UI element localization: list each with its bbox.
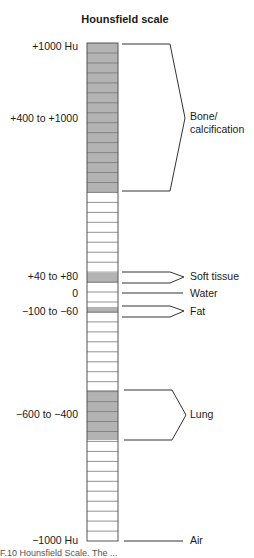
shade-soft-tissue bbox=[87, 273, 118, 283]
brackets bbox=[122, 44, 186, 541]
fat-arrow bbox=[122, 306, 184, 317]
figure-caption: F.10 Hounsfield Scale. The ... bbox=[0, 548, 117, 558]
soft-tissue-arrow bbox=[122, 272, 184, 283]
bone-bracket bbox=[122, 44, 185, 191]
shade-lung bbox=[87, 390, 118, 440]
lung-bracket bbox=[124, 390, 186, 440]
shade-bone bbox=[87, 43, 118, 193]
